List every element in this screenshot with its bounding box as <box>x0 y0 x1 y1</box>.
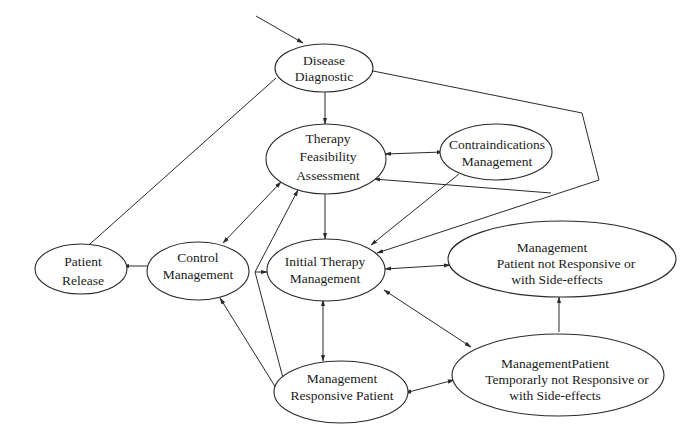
node-label-line: Management <box>290 271 361 286</box>
node-control-management: Control Management <box>147 242 249 300</box>
edge-responsive-to-control <box>220 298 276 388</box>
node-label-line: Control <box>177 250 219 265</box>
node-label-line: Patient not Responsive or <box>497 256 636 271</box>
node-label-line: Management <box>462 154 533 169</box>
node-label-line: Feasibility <box>300 149 357 164</box>
edge-feasibility-control <box>223 182 281 243</box>
node-label-line: Management <box>307 371 378 386</box>
edge-not-responsive-to-feasibility <box>374 179 551 193</box>
node-therapy-feasibility-assessment: Therapy Feasibility Assessment <box>266 124 386 194</box>
edge-initial-temporarily <box>384 290 471 347</box>
node-responsive-patient: Management Responsive Patient <box>274 361 408 423</box>
node-label-line: Responsive Patient <box>290 388 393 403</box>
node-temporarily-not-responsive: ManagementPatient Temporarly not Respons… <box>452 334 664 416</box>
node-label-line: with Side-effects <box>511 272 603 287</box>
node-label-line: Initial Therapy <box>285 254 366 269</box>
node-label-line: Disease <box>303 53 345 68</box>
state-diagram: Disease Diagnostic Therapy Feasibility A… <box>0 0 694 448</box>
edge-initial-not-responsive <box>385 265 450 269</box>
node-label-line: Assessment <box>296 168 360 183</box>
node-label-line: ManagementPatient <box>501 356 609 371</box>
node-label-line: Management <box>163 267 234 282</box>
node-label-line: with Side-effects <box>509 388 601 403</box>
node-initial-therapy-management: Initial Therapy Management <box>267 239 385 301</box>
node-patient-not-responsive: Management Patient not Responsive or wit… <box>448 221 676 297</box>
edge-responsive-temporarily <box>405 380 454 393</box>
edge-start-to-disease-diagnostic <box>256 16 303 43</box>
node-label-line: Diagnostic <box>295 69 354 84</box>
node-patient-release: Patient Release <box>35 244 127 294</box>
node-contraindications-management: Contraindications Management <box>440 124 552 180</box>
edge-diagnostic-to-patient-release <box>81 78 276 252</box>
node-label-line: Patient <box>64 254 102 269</box>
node-label-line: Contraindications <box>449 137 545 152</box>
node-label-line: Release <box>62 273 104 288</box>
node-label-line: Therapy <box>306 131 351 146</box>
node-label-line: Management <box>517 240 588 255</box>
node-label-line: Temporarly not Responsive or <box>485 372 649 387</box>
node-disease-diagnostic: Disease Diagnostic <box>275 44 373 92</box>
edge-feasibility-contraindications <box>385 152 443 154</box>
